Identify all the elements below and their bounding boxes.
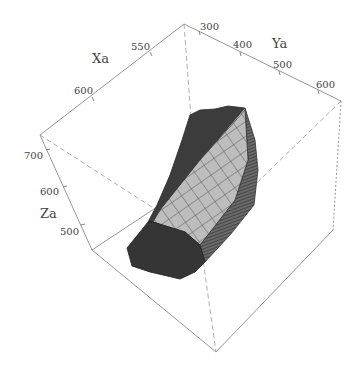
- y-tick-500: 500: [273, 59, 292, 70]
- z-tick-700: 700: [24, 150, 43, 161]
- x-tick-600: 600: [74, 85, 93, 96]
- 3d-plot: Xa 550 600 300 400 Ya 500 600 700 600 Za…: [0, 0, 361, 371]
- x-tick-550: 550: [131, 41, 150, 52]
- z-tick-600: 600: [40, 186, 59, 197]
- z-axis-label: Za: [40, 206, 57, 221]
- y-tick-600: 600: [316, 79, 335, 90]
- z-tick-500: 500: [60, 226, 79, 237]
- y-tick-300: 300: [200, 21, 219, 32]
- x-axis-label: Xa: [92, 51, 109, 66]
- y-tick-400: 400: [233, 39, 252, 50]
- y-axis-label: Ya: [271, 36, 288, 51]
- surface-solid: [127, 106, 258, 279]
